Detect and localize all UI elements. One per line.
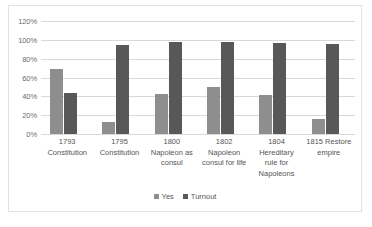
bar-turnout[interactable] — [116, 45, 129, 134]
bar-yes[interactable] — [102, 122, 115, 134]
bar-turnout[interactable] — [273, 43, 286, 134]
bar-yes[interactable] — [259, 95, 272, 134]
bar-turnout[interactable] — [221, 42, 234, 134]
bar-group — [41, 21, 93, 134]
category-label-line: rule for — [245, 158, 308, 169]
category-label-line: empire — [297, 148, 360, 159]
y-tick-label: 60% — [22, 73, 37, 82]
legend-swatch-icon — [183, 194, 188, 199]
bar-yes[interactable] — [50, 69, 63, 134]
bar-yes[interactable] — [312, 119, 325, 134]
bar-yes[interactable] — [207, 87, 220, 134]
category-label-line: 1815 Restore — [297, 137, 360, 148]
y-tick-label: 120% — [18, 17, 37, 26]
category-label: 1815 Restoreempire — [297, 137, 360, 158]
bar-group — [303, 21, 355, 134]
bar-group — [93, 21, 145, 134]
x-axis-category-labels: 1793Constitution1795Constitution1800Napo… — [41, 137, 355, 193]
plot-area — [41, 21, 355, 134]
category-label-line: Napoleons — [245, 169, 308, 180]
y-axis: 120%100%80%60%40%20%0% — [9, 21, 39, 134]
bar-yes[interactable] — [155, 94, 168, 134]
chart-container: 120%100%80%60%40%20%0% 1793Constitution1… — [8, 5, 362, 212]
legend-swatch-icon — [154, 194, 159, 199]
legend-item-turnout[interactable]: Turnout — [183, 192, 217, 201]
y-tick-label: 100% — [18, 35, 37, 44]
legend-item-yes[interactable]: Yes — [154, 192, 174, 201]
bar-turnout[interactable] — [326, 44, 339, 134]
bar-group — [198, 21, 250, 134]
y-tick-label: 20% — [22, 111, 37, 120]
bar-group — [146, 21, 198, 134]
legend-label: Yes — [162, 192, 174, 201]
y-tick-label: 40% — [22, 92, 37, 101]
bar-group — [250, 21, 302, 134]
legend-label: Turnout — [191, 192, 217, 201]
gridline-0 — [41, 134, 355, 135]
chart-legend: YesTurnout — [9, 192, 361, 201]
bar-turnout[interactable] — [169, 42, 182, 134]
bar-turnout[interactable] — [64, 93, 77, 134]
y-tick-label: 80% — [22, 54, 37, 63]
